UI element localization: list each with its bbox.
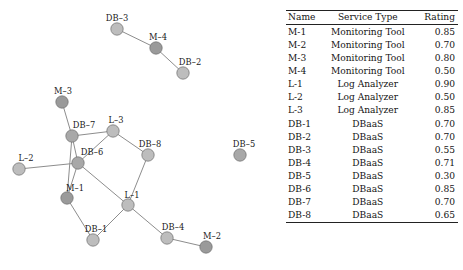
cell-rating: 0.70: [415, 196, 458, 209]
cell-rating: 0.90: [415, 78, 458, 91]
cell-name: DB-3: [286, 143, 320, 156]
graph-node-label-db-1: DB–1: [85, 224, 108, 234]
graph-node-db-2[interactable]: [177, 67, 189, 79]
cell-rating: 0.65: [415, 209, 458, 223]
cell-rating: 0.70: [415, 117, 458, 130]
table-header-row: Name Service Type Rating: [286, 11, 458, 25]
service-table: Name Service Type Rating M-1Monitoring T…: [286, 10, 458, 223]
cell-name: DB-5: [286, 169, 320, 182]
column-header-type: Service Type: [320, 11, 415, 25]
table-row: L-3Log Analyzer0.85: [286, 104, 458, 117]
graph-edge: [78, 163, 128, 205]
graph-node-label-l-1: L–1: [124, 190, 139, 200]
graph-node-label-m-3: M–3: [54, 86, 72, 96]
graph-node-label-db-5: DB–5: [233, 139, 256, 149]
table-row: M-4Monitoring Tool0.50: [286, 65, 458, 78]
cell-service-type: Monitoring Tool: [320, 52, 415, 65]
graph-node-l-3[interactable]: [107, 125, 119, 137]
table-row: DB-2DBaaS0.70: [286, 130, 458, 143]
table-row: DB-4DBaaS0.71: [286, 156, 458, 169]
cell-rating: 0.71: [415, 156, 458, 169]
graph-node-label-db-2: DB–2: [179, 57, 202, 67]
graph-node-m-3[interactable]: [56, 96, 68, 108]
graph-node-label-l-3: L–3: [108, 115, 123, 125]
table-row: DB-5DBaaS0.30: [286, 169, 458, 182]
column-header-name: Name: [286, 11, 320, 25]
graph-node-label-db-8: DB–8: [139, 139, 162, 149]
graph-node-label-db-3: DB–3: [106, 13, 129, 23]
graph-edge: [93, 205, 128, 240]
cell-service-type: Log Analyzer: [320, 91, 415, 104]
cell-service-type: Monitoring Tool: [320, 38, 415, 51]
cell-service-type: DBaaS: [320, 169, 415, 182]
table-row: M-1Monitoring Tool0.85: [286, 25, 458, 39]
graph-node-layer: [13, 23, 246, 253]
graph-node-db-6[interactable]: [72, 157, 84, 169]
cell-name: M-2: [286, 38, 320, 51]
graph-node-db-4[interactable]: [161, 232, 173, 244]
cell-rating: 0.55: [415, 143, 458, 156]
table-row: DB-6DBaaS0.85: [286, 183, 458, 196]
graph-node-db-1[interactable]: [87, 234, 99, 246]
table-row: M-2Monitoring Tool0.70: [286, 38, 458, 51]
cell-service-type: DBaaS: [320, 183, 415, 196]
table-row: DB-1DBaaS0.70: [286, 117, 458, 130]
cell-rating: 0.85: [415, 104, 458, 117]
table-head: Name Service Type Rating: [286, 11, 458, 25]
cell-name: DB-8: [286, 209, 320, 223]
cell-name: M-3: [286, 52, 320, 65]
graph-edge: [67, 198, 93, 240]
cell-service-type: DBaaS: [320, 196, 415, 209]
cell-service-type: Monitoring Tool: [320, 25, 415, 39]
graph-node-label-db-4: DB–4: [162, 222, 185, 232]
cell-rating: 0.50: [415, 91, 458, 104]
table-body: M-1Monitoring Tool0.85M-2Monitoring Tool…: [286, 25, 458, 222]
graph-node-label-m-1: M–1: [66, 183, 84, 193]
graph-node-m-4[interactable]: [150, 42, 162, 54]
cell-rating: 0.85: [415, 183, 458, 196]
table-row: L-2Log Analyzer0.50: [286, 91, 458, 104]
cell-name: DB-1: [286, 117, 320, 130]
cell-name: DB-4: [286, 156, 320, 169]
cell-service-type: Log Analyzer: [320, 78, 415, 91]
cell-service-type: DBaaS: [320, 143, 415, 156]
cell-name: DB-6: [286, 183, 320, 196]
table-row: DB-8DBaaS0.65: [286, 209, 458, 223]
graph-node-l-1[interactable]: [122, 199, 134, 211]
cell-name: L-1: [286, 78, 320, 91]
table-row: M-3Monitoring Tool0.80: [286, 52, 458, 65]
cell-service-type: DBaaS: [320, 130, 415, 143]
graph-node-m-2[interactable]: [200, 241, 212, 253]
service-graph: DB–3M–4DB–2M–3DB–7L–3DB–6DB–8L–2M–1L–1DB…: [0, 0, 266, 270]
graph-node-db-8[interactable]: [142, 149, 154, 161]
graph-node-label-db-7: DB–7: [73, 120, 96, 130]
graph-node-l-2[interactable]: [13, 163, 25, 175]
graph-label-layer: DB–3M–4DB–2M–3DB–7L–3DB–6DB–8L–2M–1L–1DB…: [18, 13, 255, 242]
graph-node-label-db-6: DB–6: [81, 147, 104, 157]
cell-name: DB-2: [286, 130, 320, 143]
table-row: DB-3DBaaS0.55: [286, 143, 458, 156]
cell-service-type: Log Analyzer: [320, 104, 415, 117]
cell-rating: 0.70: [415, 130, 458, 143]
cell-rating: 0.85: [415, 25, 458, 39]
graph-node-db-3[interactable]: [111, 23, 123, 35]
column-header-rating: Rating: [415, 11, 458, 25]
table-row: DB-7DBaaS0.70: [286, 196, 458, 209]
cell-service-type: Monitoring Tool: [320, 65, 415, 78]
cell-service-type: DBaaS: [320, 209, 415, 223]
service-table-panel: Name Service Type Rating M-1Monitoring T…: [286, 10, 458, 223]
cell-name: M-4: [286, 65, 320, 78]
cell-rating: 0.50: [415, 65, 458, 78]
cell-name: DB-7: [286, 196, 320, 209]
cell-name: L-2: [286, 91, 320, 104]
graph-node-m-1[interactable]: [61, 192, 73, 204]
table-row: L-1Log Analyzer0.90: [286, 78, 458, 91]
graph-node-db-5[interactable]: [234, 149, 246, 161]
graph-node-db-7[interactable]: [66, 130, 78, 142]
graph-node-label-m-2: M–2: [203, 231, 221, 241]
graph-node-label-l-2: L–2: [18, 153, 33, 163]
service-graph-panel: DB–3M–4DB–2M–3DB–7L–3DB–6DB–8L–2M–1L–1DB…: [0, 0, 266, 270]
graph-node-label-m-4: M–4: [149, 32, 167, 42]
cell-name: M-1: [286, 25, 320, 39]
cell-rating: 0.80: [415, 52, 458, 65]
